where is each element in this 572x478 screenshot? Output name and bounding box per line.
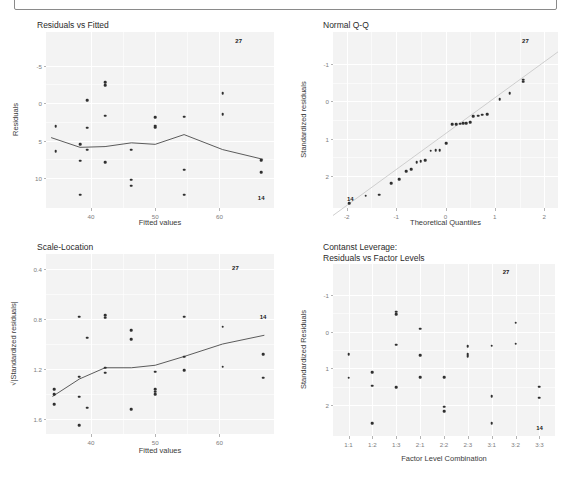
data-point bbox=[378, 194, 381, 197]
data-point bbox=[130, 184, 133, 187]
x-axis-tick-mark bbox=[396, 208, 397, 211]
x-axis-tick-label: 0 bbox=[434, 213, 458, 220]
data-point bbox=[183, 355, 186, 358]
header-box bbox=[14, 0, 557, 10]
data-point bbox=[538, 385, 541, 388]
plot-area[interactable]: 2714 bbox=[46, 254, 274, 434]
y-axis-tick-label: 1 bbox=[309, 135, 329, 142]
x-axis-tick-mark bbox=[420, 436, 421, 439]
data-point bbox=[443, 410, 446, 413]
data-point bbox=[183, 193, 186, 196]
x-axis-tick-label: 1:3 bbox=[384, 441, 408, 448]
outlier-label: 27 bbox=[522, 38, 529, 44]
x-axis-tick-label: 1:1 bbox=[337, 441, 361, 448]
x-axis-tick-label: 3:3 bbox=[527, 441, 551, 448]
x-axis-tick-mark bbox=[155, 434, 156, 437]
data-point bbox=[154, 393, 157, 396]
data-point bbox=[438, 149, 441, 152]
x-axis-tick-mark bbox=[91, 208, 92, 211]
data-point bbox=[221, 365, 224, 368]
loess-trend-line bbox=[51, 135, 263, 160]
data-point bbox=[395, 343, 398, 346]
data-point bbox=[514, 321, 517, 324]
panel-title: Scale-Location bbox=[37, 242, 93, 253]
data-point bbox=[104, 161, 107, 164]
data-point bbox=[455, 123, 458, 126]
data-point bbox=[104, 115, 107, 118]
plot-area[interactable]: 2714 bbox=[333, 264, 555, 436]
data-point bbox=[416, 161, 419, 164]
panel-normal-qq[interactable]: Normal Q-Q 2714 Theoretical Quantiles St… bbox=[286, 18, 572, 240]
data-point bbox=[78, 315, 81, 318]
data-point bbox=[260, 159, 263, 162]
x-axis-tick-mark bbox=[492, 436, 493, 439]
data-point bbox=[538, 396, 541, 399]
data-point bbox=[78, 375, 81, 378]
data-point bbox=[371, 385, 374, 388]
panel-residuals-vs-fitted[interactable]: Residuals vs Fitted 2714 Fitted values R… bbox=[0, 18, 286, 240]
y-axis-tick-mark bbox=[44, 66, 47, 67]
data-point bbox=[221, 92, 224, 95]
data-point bbox=[467, 355, 470, 358]
data-point bbox=[424, 159, 427, 162]
data-point bbox=[86, 406, 89, 409]
x-axis-tick-label: 1 bbox=[483, 213, 507, 220]
data-point bbox=[508, 92, 511, 95]
y-axis-tick-label: -5 bbox=[22, 62, 42, 69]
y-axis-tick-label: 1.2 bbox=[22, 366, 42, 373]
x-axis-tick-label: 50 bbox=[143, 439, 167, 446]
data-point bbox=[434, 149, 437, 152]
data-point bbox=[498, 98, 501, 101]
data-point bbox=[429, 149, 432, 152]
data-point bbox=[514, 342, 517, 345]
outlier-label: 14 bbox=[347, 196, 354, 202]
data-point bbox=[78, 395, 81, 398]
y-axis-tick-label: 0 bbox=[309, 98, 329, 105]
x-axis-tick-label: 2:1 bbox=[408, 441, 432, 448]
outlier-label: 14 bbox=[536, 425, 543, 431]
data-point bbox=[477, 114, 480, 117]
data-point bbox=[260, 171, 263, 174]
panel-scale-location[interactable]: Scale-Location 2714 Fitted values √|Stan… bbox=[0, 240, 286, 478]
data-point bbox=[183, 115, 186, 118]
y-axis-label: Residuals bbox=[11, 32, 20, 208]
y-axis-tick-mark bbox=[331, 405, 334, 406]
panel-title: Residuals vs Fitted bbox=[37, 20, 109, 31]
data-point bbox=[79, 193, 82, 196]
panel-title: Contanst Leverage: Residuals vs Factor L… bbox=[323, 242, 425, 263]
x-axis-tick-label: 60 bbox=[207, 439, 231, 446]
y-axis-tick-mark bbox=[331, 139, 334, 140]
panel-title: Normal Q-Q bbox=[323, 20, 369, 31]
plot-area[interactable]: 2714 bbox=[46, 32, 274, 208]
data-point bbox=[410, 168, 413, 171]
y-axis-tick-label: -1 bbox=[309, 292, 329, 299]
data-point bbox=[262, 353, 265, 356]
panel-constant-leverage[interactable]: Contanst Leverage: Residuals vs Factor L… bbox=[286, 240, 572, 478]
plot-area[interactable]: 2714 bbox=[333, 32, 558, 208]
data-point bbox=[130, 408, 133, 411]
x-axis-tick-label: 2:3 bbox=[456, 441, 480, 448]
x-axis-tick-label: 60 bbox=[207, 213, 231, 220]
x-axis-tick-label: 3:1 bbox=[480, 441, 504, 448]
data-point bbox=[154, 126, 157, 129]
data-point bbox=[221, 113, 224, 116]
y-axis-tick-label: 1 bbox=[309, 365, 329, 372]
data-point bbox=[420, 160, 423, 163]
data-point bbox=[104, 316, 107, 319]
x-axis-tick-mark bbox=[349, 436, 350, 439]
trend-line-layer bbox=[46, 32, 274, 208]
data-point bbox=[183, 369, 186, 372]
y-axis-tick-label: 5 bbox=[22, 137, 42, 144]
trend-line-layer bbox=[46, 254, 274, 434]
data-point bbox=[398, 178, 401, 181]
data-point bbox=[481, 113, 484, 116]
loess-trend-line bbox=[52, 335, 264, 396]
y-axis-tick-mark bbox=[331, 64, 334, 65]
x-axis-tick-label: 50 bbox=[143, 213, 167, 220]
y-axis-tick-mark bbox=[44, 419, 47, 420]
y-axis-tick-mark bbox=[44, 319, 47, 320]
y-axis-tick-label: 10 bbox=[22, 175, 42, 182]
data-point bbox=[390, 182, 393, 185]
data-point bbox=[443, 405, 446, 408]
x-axis-label: Factor Level Combination bbox=[333, 454, 555, 463]
